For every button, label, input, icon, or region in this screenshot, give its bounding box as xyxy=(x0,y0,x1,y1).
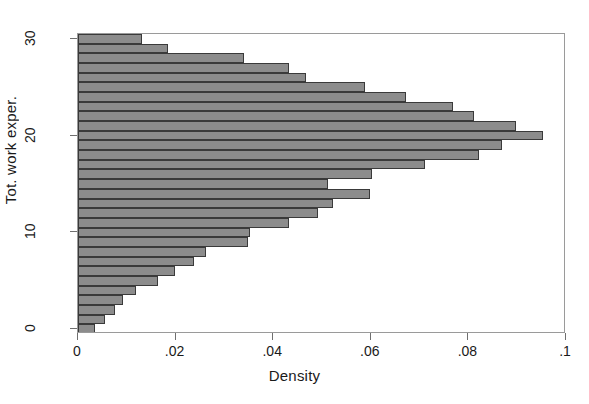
y-tick-label: 20 xyxy=(22,115,62,155)
histogram-bar xyxy=(78,131,543,141)
y-tick xyxy=(70,328,77,329)
histogram-bar xyxy=(78,34,142,44)
x-tick xyxy=(467,333,468,340)
histogram-bar xyxy=(78,237,248,247)
histogram-chart: Tot. work exper. 0102030 0.02.04.06.08.1… xyxy=(0,0,589,404)
histogram-bar xyxy=(78,140,502,150)
histogram-bar xyxy=(78,179,328,189)
histogram-bar xyxy=(78,315,105,325)
histogram-bar xyxy=(78,92,406,102)
histogram-bar xyxy=(78,218,289,228)
x-axis-title: Density xyxy=(0,367,589,384)
histogram-bar xyxy=(78,111,474,121)
y-tick xyxy=(70,231,77,232)
histogram-bar xyxy=(78,121,516,131)
x-tick xyxy=(175,333,176,340)
plot-area xyxy=(77,33,565,333)
histogram-bar xyxy=(78,102,453,112)
histogram-bar xyxy=(78,73,306,83)
y-tick-label: 30 xyxy=(22,18,62,58)
histogram-bar xyxy=(78,228,250,238)
histogram-bar xyxy=(78,169,372,179)
histogram-bar xyxy=(78,266,175,276)
histogram-bar xyxy=(78,286,136,296)
y-axis-title: Tot. work exper. xyxy=(2,96,19,204)
histogram-bar xyxy=(78,82,365,92)
histogram-bar xyxy=(78,150,479,160)
x-tick-label: .06 xyxy=(340,343,400,359)
histogram-bar xyxy=(78,305,115,315)
x-tick xyxy=(77,333,78,340)
histogram-bar xyxy=(78,247,206,257)
x-tick-label: .1 xyxy=(535,343,589,359)
bars-layer xyxy=(78,34,564,332)
y-tick xyxy=(70,135,77,136)
histogram-bar xyxy=(78,199,333,209)
x-tick-label: 0 xyxy=(47,343,107,359)
y-tick-label: 10 xyxy=(22,211,62,251)
histogram-bar xyxy=(78,63,289,73)
y-tick xyxy=(70,38,77,39)
x-tick-label: .02 xyxy=(145,343,205,359)
histogram-bar xyxy=(78,189,370,199)
histogram-bar xyxy=(78,324,95,332)
histogram-bar xyxy=(78,295,123,305)
x-tick xyxy=(272,333,273,340)
histogram-bar xyxy=(78,276,158,286)
x-tick-label: .04 xyxy=(242,343,302,359)
histogram-bar xyxy=(78,53,244,63)
histogram-bar xyxy=(78,208,318,218)
x-tick xyxy=(565,333,566,340)
histogram-bar xyxy=(78,160,425,170)
x-tick-label: .08 xyxy=(437,343,497,359)
x-tick xyxy=(370,333,371,340)
histogram-bar xyxy=(78,44,168,54)
histogram-bar xyxy=(78,257,194,267)
